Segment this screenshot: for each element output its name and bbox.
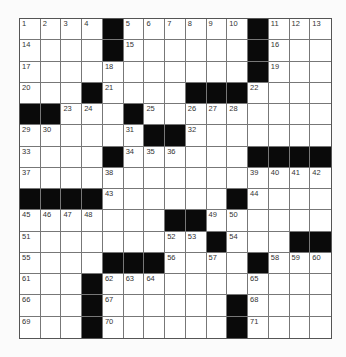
grid-cell[interactable]: 43 <box>103 189 124 210</box>
grid-cell[interactable]: 6 <box>144 19 165 40</box>
grid-cell[interactable]: 25 <box>144 104 165 125</box>
grid-cell[interactable] <box>269 295 290 316</box>
grid-cell[interactable]: 29 <box>20 125 41 146</box>
grid-cell[interactable]: 40 <box>269 168 290 189</box>
grid-cell[interactable] <box>207 125 228 146</box>
grid-cell[interactable] <box>124 232 145 253</box>
grid-cell[interactable] <box>227 253 248 274</box>
grid-cell[interactable] <box>310 62 331 83</box>
grid-cell[interactable] <box>290 104 311 125</box>
grid-cell[interactable] <box>41 147 62 168</box>
grid-cell[interactable]: 33 <box>20 147 41 168</box>
grid-cell[interactable]: 2 <box>41 19 62 40</box>
grid-cell[interactable]: 10 <box>227 19 248 40</box>
grid-cell[interactable] <box>248 104 269 125</box>
grid-cell[interactable] <box>290 295 311 316</box>
grid-cell[interactable]: 48 <box>82 210 103 231</box>
grid-cell[interactable] <box>103 232 124 253</box>
grid-cell[interactable] <box>165 83 186 104</box>
grid-cell[interactable] <box>103 104 124 125</box>
grid-cell[interactable]: 30 <box>41 125 62 146</box>
grid-cell[interactable] <box>165 62 186 83</box>
grid-cell[interactable] <box>227 168 248 189</box>
grid-cell[interactable]: 37 <box>20 168 41 189</box>
grid-cell[interactable]: 59 <box>290 253 311 274</box>
grid-cell[interactable] <box>290 189 311 210</box>
grid-cell[interactable] <box>61 274 82 295</box>
grid-cell[interactable]: 55 <box>20 253 41 274</box>
grid-cell[interactable]: 34 <box>124 147 145 168</box>
grid-cell[interactable] <box>144 232 165 253</box>
grid-cell[interactable] <box>186 189 207 210</box>
grid-cell[interactable] <box>41 168 62 189</box>
grid-cell[interactable] <box>124 62 145 83</box>
grid-cell[interactable]: 23 <box>61 104 82 125</box>
grid-cell[interactable]: 64 <box>144 274 165 295</box>
grid-cell[interactable] <box>61 62 82 83</box>
grid-cell[interactable] <box>165 189 186 210</box>
grid-cell[interactable]: 27 <box>207 104 228 125</box>
grid-cell[interactable]: 65 <box>248 274 269 295</box>
grid-cell[interactable] <box>41 62 62 83</box>
grid-cell[interactable] <box>227 40 248 61</box>
grid-cell[interactable]: 5 <box>124 19 145 40</box>
grid-cell[interactable] <box>227 62 248 83</box>
grid-cell[interactable] <box>61 295 82 316</box>
grid-cell[interactable]: 4 <box>82 19 103 40</box>
grid-cell[interactable] <box>124 295 145 316</box>
grid-cell[interactable] <box>207 62 228 83</box>
grid-cell[interactable] <box>61 83 82 104</box>
grid-cell[interactable]: 61 <box>20 274 41 295</box>
grid-cell[interactable]: 17 <box>20 62 41 83</box>
grid-cell[interactable] <box>82 168 103 189</box>
grid-cell[interactable]: 39 <box>248 168 269 189</box>
grid-cell[interactable]: 20 <box>20 83 41 104</box>
grid-cell[interactable] <box>186 62 207 83</box>
grid-cell[interactable] <box>82 147 103 168</box>
grid-cell[interactable]: 66 <box>20 295 41 316</box>
grid-cell[interactable] <box>310 317 331 338</box>
grid-cell[interactable]: 58 <box>269 253 290 274</box>
grid-cell[interactable] <box>310 104 331 125</box>
grid-cell[interactable]: 14 <box>20 40 41 61</box>
grid-cell[interactable] <box>124 189 145 210</box>
grid-cell[interactable] <box>186 147 207 168</box>
grid-cell[interactable]: 51 <box>20 232 41 253</box>
grid-cell[interactable] <box>103 210 124 231</box>
grid-cell[interactable] <box>144 189 165 210</box>
grid-cell[interactable]: 42 <box>310 168 331 189</box>
grid-cell[interactable] <box>269 210 290 231</box>
grid-cell[interactable] <box>310 295 331 316</box>
grid-cell[interactable]: 62 <box>103 274 124 295</box>
grid-cell[interactable]: 68 <box>248 295 269 316</box>
grid-cell[interactable]: 54 <box>227 232 248 253</box>
grid-cell[interactable] <box>103 125 124 146</box>
grid-cell[interactable]: 70 <box>103 317 124 338</box>
grid-cell[interactable] <box>124 168 145 189</box>
grid-cell[interactable] <box>82 125 103 146</box>
grid-cell[interactable] <box>207 295 228 316</box>
grid-cell[interactable]: 57 <box>207 253 228 274</box>
grid-cell[interactable] <box>41 295 62 316</box>
grid-cell[interactable]: 44 <box>248 189 269 210</box>
grid-cell[interactable] <box>144 168 165 189</box>
grid-cell[interactable] <box>227 274 248 295</box>
grid-cell[interactable]: 26 <box>186 104 207 125</box>
grid-cell[interactable]: 11 <box>269 19 290 40</box>
grid-cell[interactable] <box>144 295 165 316</box>
grid-cell[interactable]: 63 <box>124 274 145 295</box>
grid-cell[interactable]: 53 <box>186 232 207 253</box>
grid-cell[interactable]: 69 <box>20 317 41 338</box>
grid-cell[interactable]: 52 <box>165 232 186 253</box>
grid-cell[interactable] <box>165 104 186 125</box>
grid-cell[interactable] <box>186 253 207 274</box>
grid-cell[interactable] <box>61 40 82 61</box>
grid-cell[interactable]: 49 <box>207 210 228 231</box>
grid-cell[interactable] <box>41 317 62 338</box>
grid-cell[interactable]: 1 <box>20 19 41 40</box>
grid-cell[interactable]: 12 <box>290 19 311 40</box>
grid-cell[interactable] <box>248 232 269 253</box>
grid-cell[interactable]: 7 <box>165 19 186 40</box>
grid-cell[interactable] <box>310 210 331 231</box>
grid-cell[interactable]: 19 <box>269 62 290 83</box>
